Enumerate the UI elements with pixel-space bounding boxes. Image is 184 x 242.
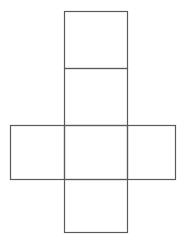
cube-net-diagram: [0, 0, 184, 242]
background: [0, 0, 184, 242]
